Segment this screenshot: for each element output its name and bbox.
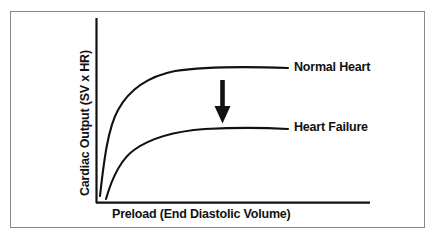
figure-root: Normal Heart Heart Failure Preload (End … — [0, 0, 440, 240]
curve-normal-heart — [100, 67, 288, 196]
curve-label-normal-heart: Normal Heart — [294, 60, 370, 74]
x-axis-title: Preload (End Diastolic Volume) — [112, 207, 291, 221]
curve-heart-failure — [106, 128, 288, 199]
down-arrow-icon — [215, 80, 231, 124]
y-axis-title: Cardiac Output (SV x HR) — [78, 50, 92, 196]
curve-label-heart-failure: Heart Failure — [294, 120, 368, 134]
plot-canvas — [0, 0, 440, 240]
